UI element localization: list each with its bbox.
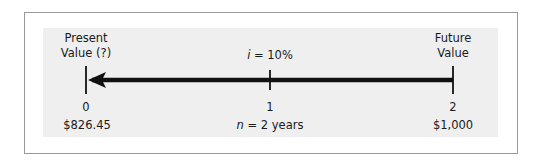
periods-count-label: n = 2 years <box>237 118 304 132</box>
timeline <box>0 0 544 165</box>
period-label-2: 2 <box>449 100 456 114</box>
future-value-amount: $1,000 <box>433 118 473 132</box>
n-value: = 2 years <box>244 118 304 132</box>
period-label-1: 1 <box>266 100 273 114</box>
period-label-0: 0 <box>82 100 89 114</box>
present-value-amount: $826.45 <box>63 118 111 132</box>
